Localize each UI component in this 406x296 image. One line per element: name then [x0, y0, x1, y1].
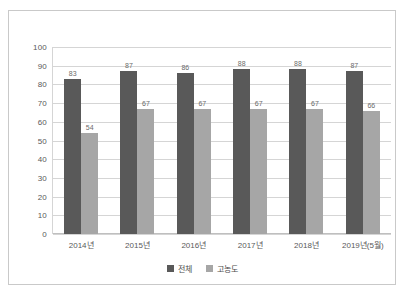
y-axis-tick-label: 100 — [33, 43, 47, 52]
x-axis-tick-label: 2018년 — [278, 239, 334, 250]
bar-group: 8354 — [53, 47, 109, 234]
bar-groups: 835487678667886788678766 — [53, 47, 391, 234]
y-axis-tick-label: 10 — [38, 211, 47, 220]
bar-value-label: 87 — [125, 62, 133, 69]
bar[interactable]: 67 — [250, 109, 267, 234]
bar-value-label: 67 — [255, 100, 263, 107]
gridline: 0 — [53, 234, 391, 235]
bar-value-label: 83 — [69, 70, 77, 77]
bar-value-label: 88 — [294, 60, 302, 67]
x-axis-tick-label: 2015년 — [109, 239, 165, 250]
legend-swatch-icon — [167, 265, 174, 272]
bar-value-label: 88 — [238, 60, 246, 67]
x-axis-tick-label: 2019년(5월) — [335, 239, 391, 250]
bar[interactable]: 67 — [137, 109, 154, 234]
bar-value-label: 67 — [198, 100, 206, 107]
bar-value-label: 87 — [350, 62, 358, 69]
bar-group: 8867 — [222, 47, 278, 234]
y-axis-tick-label: 40 — [38, 155, 47, 164]
bar-group: 8867 — [278, 47, 334, 234]
bar[interactable]: 88 — [289, 69, 306, 234]
y-axis-tick-label: 60 — [38, 117, 47, 126]
bar[interactable]: 66 — [363, 111, 380, 234]
bar-value-label: 86 — [181, 64, 189, 71]
bar[interactable]: 86 — [177, 73, 194, 234]
bar[interactable]: 83 — [64, 79, 81, 234]
legend-label: 전체 — [178, 263, 192, 274]
x-axis-tick-label: 2014년 — [53, 239, 109, 250]
bar[interactable]: 87 — [346, 71, 363, 234]
bar-value-label: 66 — [367, 102, 375, 109]
legend-label: 고농도 — [217, 263, 238, 274]
y-axis-tick-label: 30 — [38, 173, 47, 182]
y-axis-tick-label: 50 — [38, 136, 47, 145]
y-axis-tick-label: 0 — [42, 230, 47, 239]
y-axis-tick-label: 80 — [38, 80, 47, 89]
bar-group: 8667 — [166, 47, 222, 234]
bar-group: 8767 — [109, 47, 165, 234]
x-axis-tick-label: 2016년 — [166, 239, 222, 250]
bar-value-label: 67 — [311, 100, 319, 107]
plot-area: 1009080706050403020100 83548767866788678… — [53, 47, 391, 234]
bar[interactable]: 54 — [81, 133, 98, 234]
bar[interactable]: 67 — [306, 109, 323, 234]
legend-swatch-icon — [206, 265, 213, 272]
bar[interactable]: 67 — [194, 109, 211, 234]
bar-value-label: 54 — [86, 124, 94, 131]
chart-frame: 1009080706050403020100 83548767866788678… — [8, 10, 396, 285]
legend-item[interactable]: 고농도 — [206, 263, 238, 274]
bar[interactable]: 88 — [233, 69, 250, 234]
legend-item[interactable]: 전체 — [167, 263, 192, 274]
chart-legend: 전체고농도 — [9, 263, 395, 274]
y-axis-tick-label: 70 — [38, 99, 47, 108]
category-axis: 2014년2015년2016년2017년2018년2019년(5월) — [53, 239, 391, 250]
y-axis-tick-label: 20 — [38, 192, 47, 201]
bar-value-label: 67 — [142, 100, 150, 107]
x-axis-tick-label: 2017년 — [222, 239, 278, 250]
bar[interactable]: 87 — [120, 71, 137, 234]
y-axis-tick-label: 90 — [38, 61, 47, 70]
bar-group: 8766 — [335, 47, 391, 234]
